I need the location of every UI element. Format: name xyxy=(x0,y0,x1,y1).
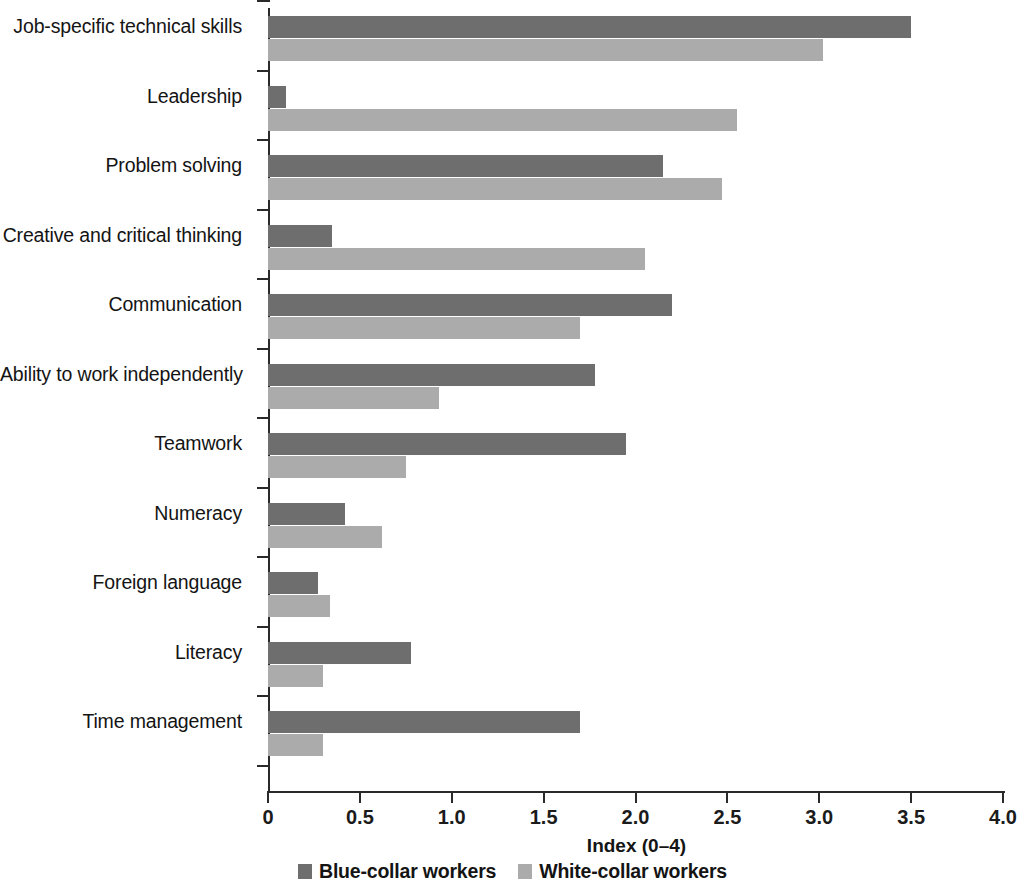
x-axis-title: Index (0–4) xyxy=(268,835,1005,857)
bar-white-collar xyxy=(268,317,580,339)
x-axis-tick xyxy=(818,791,820,803)
x-axis-tick-label: 1.5 xyxy=(530,806,558,829)
x-axis-tick-label: 1.0 xyxy=(438,806,466,829)
bar-group xyxy=(268,16,1003,62)
bar-group xyxy=(268,225,1003,271)
x-axis-tick xyxy=(635,791,637,803)
x-axis-tick-label: 4.0 xyxy=(989,806,1017,829)
category-label: Literacy xyxy=(0,640,256,663)
x-axis-tick xyxy=(1002,791,1004,803)
category-label: Job-specific technical skills xyxy=(0,15,256,38)
x-axis-tick xyxy=(451,791,453,803)
legend-swatch-icon xyxy=(518,864,532,879)
bar-blue-collar xyxy=(268,364,595,386)
category-label: Communication xyxy=(0,293,256,316)
category-label: Teamwork xyxy=(0,432,256,455)
category-label: Problem solving xyxy=(0,154,256,177)
bar-blue-collar xyxy=(268,503,345,525)
category-label: Foreign language xyxy=(0,571,256,594)
x-axis-tick-label: 2.0 xyxy=(622,806,650,829)
legend-item: Blue-collar workers xyxy=(298,860,496,883)
bar-white-collar xyxy=(268,456,406,478)
bar-white-collar xyxy=(268,109,737,131)
category-label: Creative and critical thinking xyxy=(0,223,256,246)
x-axis-tick-label: 0 xyxy=(262,806,273,829)
bar-group xyxy=(268,572,1003,618)
x-axis-tick xyxy=(726,791,728,803)
bar-blue-collar xyxy=(268,155,663,177)
bar-group xyxy=(268,86,1003,132)
bar-group xyxy=(268,364,1003,410)
bar-white-collar xyxy=(268,526,382,548)
x-axis-tick xyxy=(543,791,545,803)
x-axis-tick xyxy=(910,791,912,803)
bar-white-collar xyxy=(268,387,439,409)
bar-white-collar xyxy=(268,595,330,617)
x-axis-tick-label: 0.5 xyxy=(346,806,374,829)
x-axis-tick-label: 2.5 xyxy=(713,806,741,829)
bar-group xyxy=(268,433,1003,479)
x-axis-tick xyxy=(359,791,361,803)
bar-blue-collar xyxy=(268,86,286,108)
category-label: Leadership xyxy=(0,84,256,107)
bar-white-collar xyxy=(268,178,722,200)
bar-group xyxy=(268,503,1003,549)
bar-blue-collar xyxy=(268,572,318,594)
x-axis-tick xyxy=(267,791,269,803)
plot-area xyxy=(268,8,1003,791)
category-label: Numeracy xyxy=(0,501,256,524)
bar-blue-collar xyxy=(268,711,580,733)
category-label: Ability to work independently xyxy=(0,362,256,385)
bar-group xyxy=(268,155,1003,201)
bar-blue-collar xyxy=(268,16,911,38)
bar-group xyxy=(268,294,1003,340)
legend-item: White-collar workers xyxy=(518,860,727,883)
bar-blue-collar xyxy=(268,225,332,247)
x-axis-tick-label: 3.0 xyxy=(805,806,833,829)
bar-white-collar xyxy=(268,734,323,756)
bar-group xyxy=(268,711,1003,757)
bar-blue-collar xyxy=(268,642,411,664)
bar-white-collar xyxy=(268,39,823,61)
category-tick xyxy=(257,0,270,2)
bar-blue-collar xyxy=(268,294,672,316)
bar-group xyxy=(268,642,1003,688)
bar-white-collar xyxy=(268,665,323,687)
legend-swatch-icon xyxy=(298,864,312,879)
legend-label: White-collar workers xyxy=(539,860,727,883)
x-axis-tick-label: 3.5 xyxy=(897,806,925,829)
chart-legend: Blue-collar workersWhite-collar workers xyxy=(0,860,1025,883)
x-axis-line xyxy=(268,791,1005,793)
category-label: Time management xyxy=(0,710,256,733)
bar-blue-collar xyxy=(268,433,626,455)
legend-label: Blue-collar workers xyxy=(319,860,496,883)
bar-chart: Job-specific technical skillsLeadershipP… xyxy=(0,0,1025,887)
bar-white-collar xyxy=(268,248,645,270)
